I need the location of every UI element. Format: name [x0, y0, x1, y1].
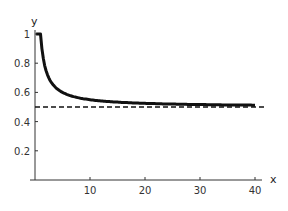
x-tick-label: 20 [139, 185, 152, 196]
y-ticks: 0.20.40.60.81 [14, 29, 38, 157]
axes: y x [30, 15, 277, 186]
line-chart: y x 0.20.40.60.81 10203040 [0, 0, 288, 211]
y-tick-label: 1 [24, 29, 30, 40]
series-group [35, 34, 266, 107]
y-axis-label: y [31, 15, 38, 28]
x-tick-label: 10 [84, 185, 97, 196]
x-tick-label: 30 [194, 185, 207, 196]
y-tick-label: 0.8 [14, 58, 30, 69]
y-tick-label: 0.2 [14, 146, 30, 157]
x-tick-label: 40 [249, 185, 262, 196]
y-tick-label: 0.6 [14, 87, 30, 98]
x-axis-label: x [270, 173, 277, 186]
curve-line [36, 34, 255, 105]
y-tick-label: 0.4 [14, 117, 30, 128]
